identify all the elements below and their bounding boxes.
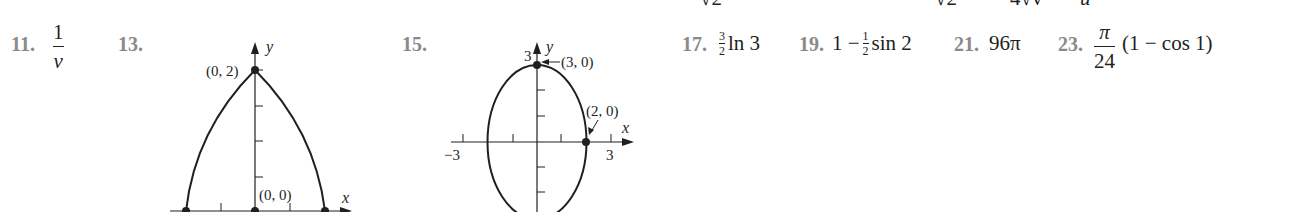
fraction-numerator: 1	[863, 30, 869, 42]
x-axis-arrow-icon	[622, 138, 634, 146]
y-axis-label: y	[264, 38, 274, 56]
expression-lead: 1 −	[832, 31, 860, 55]
coefficient-fraction: 3 2	[719, 30, 725, 57]
fraction-denominator: 24	[1094, 51, 1115, 72]
graph-13: y x (0, 2) (0, 0)	[170, 38, 352, 212]
y-axis-arrow-icon	[533, 42, 541, 54]
x-axis-arrow-icon	[340, 207, 352, 212]
y-axis-arrow-icon	[251, 42, 259, 54]
answer-19-expression: 1 − 1 2 sin 2	[832, 31, 912, 59]
fraction-numerator: 3	[719, 30, 725, 42]
point-right-marker	[321, 207, 329, 212]
fraction-numerator: π	[1099, 22, 1110, 43]
fraction-denominator: 2	[863, 45, 869, 57]
answer-23-fraction: π 24	[1094, 22, 1115, 72]
x-tick-label-neg-3: −3	[444, 147, 460, 163]
answer-number-17: 17.	[682, 33, 707, 56]
fraction-denominator: 2	[719, 45, 725, 57]
y-tick-label-3: 3	[524, 48, 532, 64]
point-origin-marker	[251, 207, 259, 212]
x-tick-label-3: 3	[606, 147, 614, 163]
point-top-label: (0, 2)	[206, 63, 239, 80]
y-axis-label: y	[544, 38, 554, 56]
point-right-marker	[582, 138, 590, 146]
graph-15: y x 3 −3 3 (3, 0) (2, 0)	[444, 38, 634, 212]
x-axis-label: x	[341, 189, 349, 206]
point-top-marker	[251, 66, 259, 74]
point-top-label: (3, 0)	[561, 54, 594, 71]
point-top-marker	[533, 61, 541, 69]
point-origin-label: (0, 0)	[259, 187, 292, 204]
answer-number-23: 23.	[1058, 33, 1083, 56]
point-right-label: (2, 0)	[586, 103, 619, 120]
pointer-arrow-icon	[541, 59, 549, 65]
x-axis-label: x	[621, 119, 629, 136]
fraction-bar	[1094, 46, 1115, 47]
expression-rest: ln 3	[728, 31, 760, 55]
answer-21-value: 96π	[989, 31, 1021, 56]
answer-17-expression: 3 2 ln 3	[716, 31, 760, 59]
answer-23-rest: (1 − cos 1)	[1122, 31, 1213, 56]
answer-number-19: 19.	[799, 33, 824, 56]
answer-graphs: y x (0, 2) (0, 0) y x 3 −3	[0, 0, 1316, 212]
answer-number-21: 21.	[954, 33, 979, 56]
coefficient-fraction: 1 2	[863, 30, 869, 57]
point-left-marker	[182, 207, 190, 212]
expression-rest: sin 2	[872, 31, 912, 55]
